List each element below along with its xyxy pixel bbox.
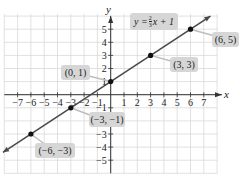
x-tick-label: 2	[135, 97, 140, 108]
x-tick-label: 3	[148, 97, 153, 108]
point-label-3-3: (3, 3)	[170, 57, 198, 72]
y-tick-label: −3	[96, 129, 107, 140]
y-tick-label: 3	[102, 50, 107, 61]
point-label-m3-m1: (−3, −1)	[89, 112, 125, 127]
data-point	[188, 27, 193, 32]
y-tick-label: −4	[96, 142, 107, 153]
x-tick-label: −6	[26, 97, 37, 108]
data-point	[28, 131, 33, 136]
point-label-6-5: (6, 5)	[212, 32, 239, 47]
y-tick-label: 2	[102, 63, 107, 74]
point-label-0-1: (0, 1)	[61, 65, 90, 80]
equation-suffix: x + 1	[153, 16, 174, 27]
y-tick-label: 4	[102, 37, 107, 48]
x-tick-label: −7	[12, 97, 23, 108]
y-axis-label: y	[105, 3, 111, 15]
data-point	[108, 79, 113, 84]
x-axis-label: x	[223, 88, 229, 100]
x-axis-arrow-icon	[215, 92, 222, 97]
x-tick-label: 5	[175, 97, 180, 108]
data-point	[68, 105, 73, 110]
y-tick-label: −5	[96, 155, 107, 166]
data-point	[148, 53, 153, 58]
y-tick-label: 5	[102, 24, 107, 35]
function-line	[3, 16, 210, 152]
x-tick-label: −4	[52, 97, 63, 108]
equation-prefix: y =	[134, 16, 148, 27]
function-line-path	[3, 16, 210, 152]
x-tick-label: 4	[161, 97, 166, 108]
fraction-numerator: 2	[149, 15, 152, 22]
point-label-m6-m3: (−6, −3)	[35, 143, 75, 158]
y-axis-arrow-icon	[108, 16, 113, 23]
label-connectors	[31, 29, 222, 148]
equation-label: y = 2 3 x + 1	[130, 13, 178, 30]
x-tick-label: 1	[122, 97, 127, 108]
x-tick-label: −5	[39, 97, 50, 108]
x-tick-label: 7	[201, 97, 206, 108]
equation-fraction: 2 3	[149, 15, 152, 28]
fraction-denominator: 3	[149, 22, 152, 28]
x-tick-label: 6	[188, 97, 193, 108]
